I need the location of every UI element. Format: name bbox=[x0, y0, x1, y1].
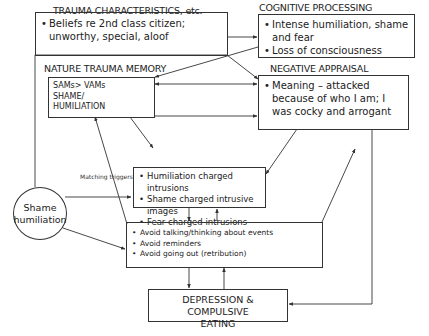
shame-humiliation-node: Shame humiliation bbox=[13, 187, 67, 240]
negative-appraisal-box: Meaning – attacked because of who I am; … bbox=[258, 75, 409, 130]
nature-trauma-memory-line: HUMILIATION bbox=[53, 102, 150, 113]
cognitive-processing-item: Intense humiliation, shame and fear bbox=[263, 18, 410, 44]
intrusions-box: Humiliation charged intrusions Shame cha… bbox=[133, 167, 266, 208]
avoidance-item: Avoid reminders bbox=[131, 239, 318, 250]
depression-line: DEPRESSION & COMPULSIVE bbox=[153, 294, 283, 318]
nature-trauma-memory-line: SHAME/ bbox=[53, 92, 150, 103]
negative-appraisal-item: Meaning – attacked because of who I am; … bbox=[263, 79, 404, 118]
matching-triggers-label: Matching triggers bbox=[80, 173, 133, 180]
depression-line: EATING bbox=[153, 318, 283, 330]
shame-humiliation-line: humiliation bbox=[13, 214, 66, 226]
trauma-characteristics-box: Beliefs re 2nd class citizen; unworthy, … bbox=[35, 12, 228, 56]
depression-box: DEPRESSION & COMPULSIVE EATING bbox=[148, 289, 288, 322]
cognitive-processing-box: Intense humiliation, shame and fear Loss… bbox=[258, 14, 415, 58]
nature-trauma-memory-line: SAMs> VAMs bbox=[53, 81, 150, 92]
intrusions-item: Humiliation charged intrusions bbox=[138, 171, 261, 194]
nature-trauma-memory-title: NATURE TRAUMA MEMORY bbox=[44, 63, 166, 74]
intrusions-item: Shame charged intrusive images bbox=[138, 194, 261, 217]
shame-humiliation-line: Shame bbox=[13, 202, 66, 214]
avoidance-item: Avoid talking/thinking about events bbox=[131, 228, 318, 239]
cognitive-processing-item: Loss of consciousness bbox=[263, 44, 410, 57]
avoidance-box: Avoid talking/thinking about events Avoi… bbox=[126, 222, 323, 268]
trauma-characteristics-item: Beliefs re 2nd class citizen; unworthy, … bbox=[40, 17, 223, 43]
cognitive-processing-title: COGNITIVE PROCESSING bbox=[259, 2, 372, 13]
avoidance-item: Avoid going out (retribution) bbox=[131, 249, 318, 260]
nature-trauma-memory-box: SAMs> VAMs SHAME/ HUMILIATION bbox=[48, 77, 155, 118]
negative-appraisal-title: NEGATIVE APPRAISAL bbox=[270, 63, 368, 74]
